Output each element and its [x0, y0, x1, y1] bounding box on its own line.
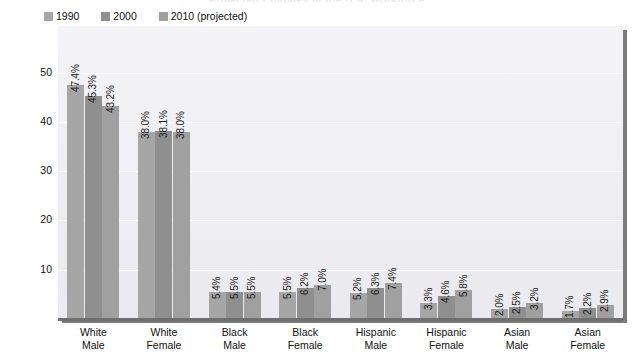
y-tick-label-50: 50 — [22, 67, 52, 78]
x-axis-label-line: Male — [199, 339, 270, 352]
bar-chart-figure: Projected Changes in the U.S. Workforce … — [0, 0, 633, 360]
bar-value-label: 5.2% — [353, 278, 363, 300]
bar-value-label: 38.0% — [141, 111, 151, 139]
bar-white-male-1990 — [67, 85, 84, 319]
x-axis-label-line: Asian — [482, 326, 553, 339]
bar-value-label: 5.8% — [459, 275, 469, 297]
y-tick-label-30: 30 — [22, 165, 52, 176]
bar-value-label: 2.0% — [495, 294, 505, 316]
x-axis-label-black-male: BlackMale — [199, 326, 270, 351]
legend-item-2000: 2000 — [101, 11, 136, 22]
x-axis-label-line: Black — [199, 326, 270, 339]
x-axis-line — [58, 318, 623, 321]
bar-value-label: 45.3% — [88, 75, 98, 103]
bar-value-label: 2.5% — [512, 291, 522, 313]
legend-label: 2000 — [113, 11, 136, 22]
y-tick-label-10: 10 — [22, 264, 52, 275]
bar-value-label: 5.5% — [230, 276, 240, 298]
bar-value-label: 6.2% — [300, 273, 310, 295]
bar-white-female-2010 — [173, 132, 190, 319]
x-axis-label-line: Asian — [552, 326, 623, 339]
x-axis-label-white-male: WhiteMale — [58, 326, 129, 351]
bar-white-male-2000 — [85, 96, 102, 319]
bar-value-label: 38.0% — [176, 111, 186, 139]
y-tick-label-40: 40 — [22, 116, 52, 127]
x-axis-label-line: White — [129, 326, 200, 339]
x-axis-label-line: Female — [129, 339, 200, 352]
x-axis-label-line: Male — [58, 339, 129, 352]
gridline-50 — [58, 73, 623, 74]
x-axis-label-line: Hispanic — [341, 326, 412, 339]
bar-value-label: 38.1% — [159, 110, 169, 138]
x-axis-label-asian-male: AsianMale — [482, 326, 553, 351]
x-axis-label-line: Female — [552, 339, 623, 352]
legend-item-1990: 1990 — [44, 11, 79, 22]
bar-value-label: 5.5% — [283, 276, 293, 298]
bar-value-label: 1.7% — [565, 295, 575, 317]
bar-white-male-2010 — [102, 106, 119, 319]
chart-title: Projected Changes in the U.S. Workforce — [0, 0, 633, 2]
x-axis-label-line: Female — [270, 339, 341, 352]
bar-value-label: 6.3% — [371, 273, 381, 295]
bar-value-label: 47.4% — [71, 64, 81, 92]
chart-legend: 199020002010 (projected) — [44, 9, 269, 23]
x-axis-label-line: Hispanic — [411, 326, 482, 339]
bar-value-label: 5.4% — [212, 277, 222, 299]
bar-white-female-2000 — [155, 131, 172, 319]
bar-value-label: 4.6% — [441, 281, 451, 303]
x-axis-label-line: Male — [341, 339, 412, 352]
bar-value-label: 43.2% — [106, 85, 116, 113]
bar-value-label: 7.4% — [388, 267, 398, 289]
bar-value-label: 5.5% — [247, 276, 257, 298]
x-axis-label-white-female: WhiteFemale — [129, 326, 200, 351]
x-axis-label-line: Male — [482, 339, 553, 352]
x-axis-label-line: Female — [411, 339, 482, 352]
x-axis-label-hispanic-male: HispanicMale — [341, 326, 412, 351]
legend-label: 1990 — [56, 11, 79, 22]
bar-value-label: 3.2% — [530, 288, 540, 310]
x-axis-label-asian-female: AsianFemale — [552, 326, 623, 351]
x-axis-label-line: White — [58, 326, 129, 339]
legend-swatch-icon — [44, 12, 53, 21]
bar-value-label: 3.3% — [424, 287, 434, 309]
legend-swatch-icon — [101, 12, 110, 21]
x-axis-label-black-female: BlackFemale — [270, 326, 341, 351]
bar-value-label: 2.2% — [583, 293, 593, 315]
x-axis-label-hispanic-female: HispanicFemale — [411, 326, 482, 351]
bar-white-female-1990 — [138, 132, 155, 319]
legend-swatch-icon — [159, 12, 168, 21]
y-tick-label-20: 20 — [22, 214, 52, 225]
legend-label: 2010 (projected) — [171, 11, 247, 22]
bar-value-label: 7.0% — [318, 269, 328, 291]
plot-area: Percentage of U.S. Workforce 47.4%45.3%4… — [58, 26, 623, 319]
x-axis-label-line: Black — [270, 326, 341, 339]
legend-item-2010: 2010 (projected) — [159, 11, 247, 22]
bar-value-label: 2.9% — [600, 289, 610, 311]
